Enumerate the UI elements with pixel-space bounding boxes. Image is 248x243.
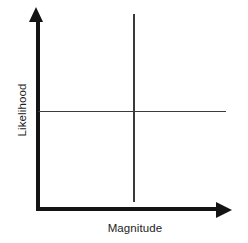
arrow-up-icon — [29, 7, 43, 22]
arrow-right-icon — [216, 202, 232, 218]
quadrant-divider-horizontal — [38, 111, 226, 113]
quadrant-divider-vertical — [133, 14, 135, 202]
risk-matrix-figure: Likelihood Magnitude — [0, 0, 248, 243]
x-axis-line — [36, 207, 219, 211]
y-axis-label: Likelihood — [13, 40, 31, 180]
y-axis-line — [36, 18, 40, 211]
x-axis-label: Magnitude — [75, 220, 195, 236]
